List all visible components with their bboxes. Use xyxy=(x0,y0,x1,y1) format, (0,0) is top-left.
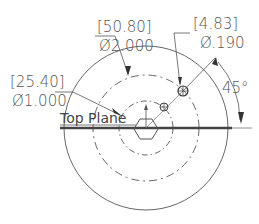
arrow-icon xyxy=(238,112,244,124)
dim-inner-bolt-metric[interactable]: [25.40] xyxy=(10,73,65,91)
hole-dim-line xyxy=(183,58,215,91)
leader-hole-diameter xyxy=(174,33,190,84)
origin-arrow-icon xyxy=(144,104,148,110)
dim-outer-bolt-imperial[interactable]: Ø2.000 xyxy=(99,37,154,55)
dim-hole-metric[interactable]: [4.83] xyxy=(193,15,238,33)
dim-outer-bolt-metric[interactable]: [50.80] xyxy=(97,18,152,36)
sketch-drawing: [50.80] Ø2.000 [25.40] Ø1.000 [4.83] Ø.1… xyxy=(0,0,259,224)
top-plane-label[interactable]: Top Plane xyxy=(59,110,126,126)
arrow-icon xyxy=(125,66,131,76)
arrow-icon xyxy=(178,77,182,86)
construction-line xyxy=(146,91,183,128)
dim-hole-imperial[interactable]: Ø.190 xyxy=(200,34,245,52)
dim-angle[interactable]: 45° xyxy=(222,79,249,97)
dim-inner-bolt-imperial[interactable]: Ø1.000 xyxy=(12,92,67,110)
